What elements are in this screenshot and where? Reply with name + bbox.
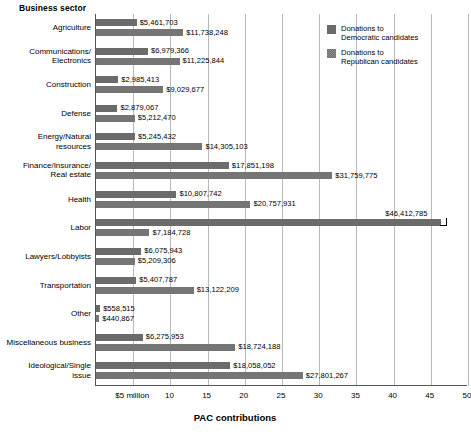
x-tick-label: 30 [314,391,323,400]
legend-item-republican: Donations to Republican candidates [327,48,418,66]
bar-rep [96,229,149,236]
bar-rep [96,172,332,179]
bar-value-label: $6,979,366 [151,47,189,54]
x-tick-label: 50 [463,391,471,400]
bar-value-label: $7,184,728 [152,229,190,236]
x-tick-label: 15 [202,391,211,400]
x-tick-label: 40 [388,391,397,400]
bar-group: Finance/Insurance/ Real estate$17,851,19… [96,162,467,191]
bar-rep [96,58,180,65]
bar-group: Lawyers/Lobbyists$6,075,943$5,209,306 [96,248,467,277]
category-label: Finance/Insurance/ Real estate [1,161,91,180]
bar-value-label: $14,305,103 [205,143,247,150]
category-label: Other [1,309,91,318]
chart-legend: Donations to Democratic candidatesDonati… [327,24,418,72]
category-label: Labor [1,223,91,232]
bar-rep [96,86,163,93]
bar-group: Energy/Natural resources$5,245,432$14,30… [96,133,467,162]
bar-value-label: $13,122,209 [197,286,239,293]
bar-value-label: $558,515 [103,305,135,312]
bar-group: Miscellaneous business$6,275,953$18,724,… [96,334,467,363]
bar-value-label: $5,245,432 [138,133,176,140]
bar-rep [96,315,99,322]
bar-dem [96,362,230,369]
y-axis-title: Business sector [19,3,86,13]
bar-dem [96,105,117,112]
bar-dem [96,277,136,284]
bar-value-label: $5,209,306 [138,257,176,264]
x-axis-title: PAC contributions [0,412,470,423]
category-label: Health [1,195,91,204]
x-tick-label: 20 [239,391,248,400]
bar-value-label: $6,275,953 [146,333,184,340]
category-label: Energy/Natural resources [1,132,91,151]
bar-value-label: $27,801,267 [306,372,348,379]
bar-rep [96,143,202,150]
bar-value-label: $11,225,844 [183,57,225,64]
bar-dem [96,133,135,140]
legend-label-republican: Donations to Republican candidates [341,48,418,66]
category-label: Lawyers/Lobbyists [1,252,91,261]
bar-dem [96,248,141,255]
x-tick-label: 35 [351,391,360,400]
category-label: Construction [1,80,91,89]
bar-value-label: $5,407,787 [139,276,177,283]
bar-dem [96,76,118,83]
bar-value-label: $17,851,198 [232,162,274,169]
bar-value-label: $31,759,775 [335,172,377,179]
x-tick-label: $5 million [115,391,149,400]
bar-value-label: $2,985,413 [121,76,159,83]
bar-rep [96,115,135,122]
bar-rep [96,201,250,208]
bar-value-label: $20,757,931 [253,200,295,207]
leader-line [440,218,447,226]
legend-swatch-republican [327,49,336,58]
bar-value-label: $6,075,943 [144,247,182,254]
bar-rep [96,29,183,36]
bar-dem [96,191,176,198]
bar-rep [96,344,235,351]
legend-swatch-democratic [327,25,336,34]
bar-dem [96,219,441,226]
bar-group: Construction$2,985,413$9,029,677 [96,76,467,105]
legend-item-democratic: Donations to Democratic candidates [327,24,418,42]
category-label: Miscellaneous business [1,338,91,347]
bar-value-label: $18,724,188 [238,343,280,350]
bar-value-label: $2,879,067 [120,104,158,111]
bar-value-label: $5,461,703 [140,19,178,26]
bar-dem [96,48,148,55]
bar-dem [96,334,143,341]
bar-rep [96,287,194,294]
bar-group: Transportation$5,407,787$13,122,209 [96,277,467,306]
x-tick-label: 25 [277,391,286,400]
bar-dem [96,162,229,169]
bar-value-label: $46,412,785 [385,210,427,217]
bar-value-label: $9,029,677 [166,86,204,93]
bar-group: Defense$2,879,067$5,212,470 [96,105,467,134]
bar-rep [96,258,135,265]
category-label: Defense [1,109,91,118]
bar-dem [96,305,100,312]
bar-group: Ideological/Single issue$18,058,052$27,8… [96,362,467,391]
bar-value-label: $10,807,742 [179,190,221,197]
gridline [468,14,469,386]
bar-rep [96,372,303,379]
bar-value-label: $440,867 [102,315,134,322]
category-label: Agriculture [1,23,91,32]
bar-value-label: $5,212,470 [138,114,176,121]
bar-dem [96,19,137,26]
bar-value-label: $18,058,052 [233,362,275,369]
category-label: Ideological/Single issue [1,361,91,380]
category-label: Communications/ Electronics [1,47,91,66]
x-tick-label: 45 [425,391,434,400]
x-tick-label: 10 [165,391,174,400]
legend-label-democratic: Donations to Democratic candidates [341,24,418,42]
category-label: Transportation [1,281,91,290]
bar-value-label: $11,738,248 [186,29,228,36]
bar-group: Other$558,515$440,867 [96,305,467,334]
bar-group: Labor$46,412,785$7,184,728 [96,219,467,248]
